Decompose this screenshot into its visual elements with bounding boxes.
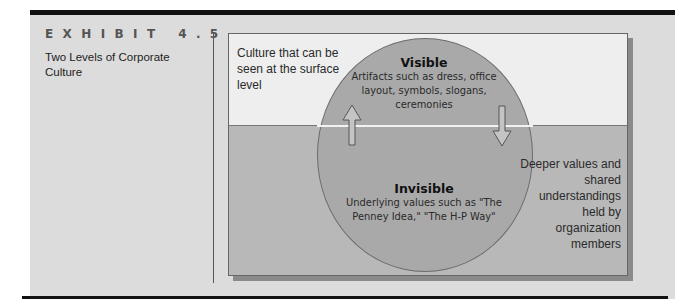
arrow-up-icon	[342, 104, 362, 146]
bottom-rule	[22, 296, 668, 299]
deeper-description: Deeper values and shared understandings …	[519, 156, 621, 252]
top-rule	[30, 10, 675, 15]
visible-heading: Visible	[349, 55, 499, 70]
invisible-body: Underlying values such as "The Penney Id…	[329, 196, 519, 224]
surface-description: Culture that can be seen at the surface …	[237, 45, 347, 93]
invisible-heading: Invisible	[339, 181, 509, 196]
exhibit-title: Two Levels of Corporate Culture	[45, 50, 205, 80]
visible-body: Artifacts such as dress, office layout, …	[349, 70, 499, 112]
exhibit-label: EXHIBIT 4.5	[45, 27, 228, 41]
culture-diagram: Culture that can be seen at the surface …	[228, 33, 628, 276]
vertical-divider	[213, 32, 214, 283]
arrow-down-icon	[492, 105, 512, 147]
